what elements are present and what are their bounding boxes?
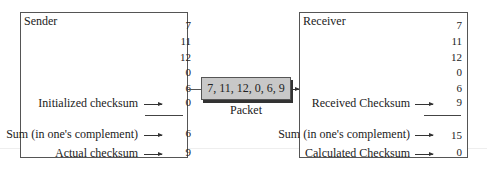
sender-value: 6 (161, 82, 191, 94)
sender-value: 11 (161, 35, 191, 47)
sender-box: Sender 7 11 12 0 6 Initialized checksum … (20, 12, 188, 158)
packet-label: Packet (201, 103, 291, 118)
receiver-value: 0 (432, 66, 462, 78)
sender-value: 7 (161, 19, 191, 31)
arrow-icon (144, 135, 162, 136)
received-checksum-label: Received Checksum (312, 96, 410, 111)
receiver-value: 11 (432, 35, 462, 47)
sender-sum-label: Sum (in one's complement) (6, 127, 138, 142)
receiver-sum-label: Sum (in one's complement) (278, 127, 410, 142)
receiver-value: 6 (432, 82, 462, 94)
receiver-sum-value: 15 (432, 129, 462, 141)
actual-checksum-label: Actual checksum (55, 146, 138, 161)
initialized-checksum-label: Initialized checksum (38, 96, 138, 111)
sum-divider (145, 115, 183, 116)
sender-sum-value: 6 (161, 127, 191, 139)
sum-divider (424, 115, 461, 116)
arrow-icon (415, 135, 433, 136)
sender-title: Sender (24, 14, 57, 29)
connector-line (188, 89, 201, 90)
arrow-icon (144, 154, 162, 155)
arrow-icon (415, 104, 433, 105)
arrow-icon (144, 104, 162, 105)
received-checksum-value: 9 (432, 96, 462, 108)
sender-value: 0 (161, 66, 191, 78)
packet-box: 7, 11, 12, 0, 6, 9 (201, 77, 291, 100)
receiver-box: Receiver 7 11 12 0 6 Received Checksum 9… (299, 12, 468, 158)
receiver-title: Receiver (303, 14, 346, 29)
initialized-checksum-value: 0 (161, 96, 191, 108)
calculated-checksum-value: 0 (432, 146, 462, 158)
sender-value: 12 (161, 51, 191, 63)
receiver-value: 12 (432, 51, 462, 63)
receiver-value: 7 (432, 19, 462, 31)
actual-checksum-value: 9 (161, 146, 191, 158)
arrow-icon (415, 154, 433, 155)
calculated-checksum-label: Calculated Checksum (305, 146, 410, 161)
